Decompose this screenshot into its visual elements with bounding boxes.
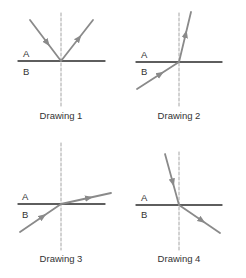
drawing-caption: Drawing 4: [158, 253, 201, 264]
medium-b-label: B: [141, 209, 147, 220]
medium-a-label: A: [22, 191, 29, 202]
outgoing-ray: [61, 20, 93, 61]
drawing-3: A B Drawing 3: [18, 143, 111, 264]
outgoing-ray: [179, 205, 220, 233]
incident-ray-arrow-icon: [160, 74, 161, 75]
outgoing-ray: [61, 193, 111, 204]
incident-ray-arrow-icon: [42, 216, 43, 217]
medium-b-label: B: [141, 66, 147, 77]
medium-a-label: A: [23, 48, 30, 59]
medium-b-label: B: [22, 209, 28, 220]
outgoing-ray-arrow-icon: [201, 220, 202, 221]
drawing-1: A B Drawing 1: [18, 13, 105, 121]
drawing-2: A B Drawing 2: [136, 12, 222, 121]
drawing-caption: Drawing 2: [158, 110, 201, 121]
drawing-caption: Drawing 3: [40, 253, 83, 264]
incident-ray: [30, 20, 61, 61]
drawing-4: A B Drawing 4: [136, 152, 222, 264]
incident-ray: [165, 154, 179, 205]
outgoing-ray-arrow-icon: [78, 38, 79, 39]
refraction-diagram: A B Drawing 1 A B Drawing 2 A B Drawing …: [0, 0, 246, 278]
outgoing-ray: [179, 12, 191, 62]
drawing-caption: Drawing 1: [40, 110, 83, 121]
medium-a-label: A: [141, 192, 148, 203]
incident-ray-arrow-icon: [47, 42, 48, 43]
medium-b-label: B: [23, 66, 29, 77]
medium-a-label: A: [141, 49, 148, 60]
